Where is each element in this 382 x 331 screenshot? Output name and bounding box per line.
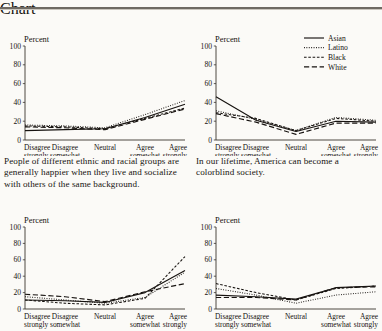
y-tick-label: 60 xyxy=(13,79,21,88)
chart-page: Percent020406080100DisagreestronglyDisag… xyxy=(0,0,382,331)
x-tick-label: strongly xyxy=(215,320,240,329)
chart-panel-bottom-left: Percent020406080100DisagreestronglyDisag… xyxy=(0,205,191,331)
y-tick-label: 80 xyxy=(13,239,21,248)
x-tick-label: strongly xyxy=(24,320,49,329)
chart-bottom-right: Percent020406080100DisagreestronglyDisag… xyxy=(191,205,382,331)
y-tick-label: 100 xyxy=(10,42,22,51)
chart-panel-top-left: Percent020406080100DisagreestronglyDisag… xyxy=(0,16,191,156)
y-tick-label: 0 xyxy=(17,136,21,145)
caption-right: In our lifetime, America can become a co… xyxy=(196,156,376,179)
legend-label-white: White xyxy=(328,63,347,72)
legend-label-latino: Latino xyxy=(328,43,348,52)
y-tick-label: 100 xyxy=(201,223,213,232)
y-tick-label: 20 xyxy=(13,117,21,126)
y-tick-label: 0 xyxy=(208,136,212,145)
y-tick-label: 40 xyxy=(13,272,21,281)
x-tick-label: strongly xyxy=(163,320,188,329)
y-tick-label: 20 xyxy=(13,288,21,297)
x-tick-label: Neutral xyxy=(285,312,307,321)
y-tick-label: 60 xyxy=(204,255,212,264)
series-line-black xyxy=(25,257,185,305)
y-tick-label: 40 xyxy=(204,272,212,281)
y-axis-unit-label: Percent xyxy=(24,216,50,225)
y-tick-label: 20 xyxy=(204,117,212,126)
caption-left: People of different ethnic and racial gr… xyxy=(4,156,184,190)
y-tick-label: 60 xyxy=(13,255,21,264)
legend-label-asian: Asian xyxy=(328,34,346,43)
y-tick-label: 40 xyxy=(13,98,21,107)
x-tick-label: Neutral xyxy=(94,312,116,321)
page-top-rule xyxy=(0,7,382,9)
y-tick-label: 100 xyxy=(201,42,213,51)
y-tick-label: 20 xyxy=(204,288,212,297)
chart-top-right: Percent020406080100DisagreestronglyDisag… xyxy=(191,16,382,156)
x-tick-label: Neutral xyxy=(285,143,307,152)
y-tick-label: 40 xyxy=(204,98,212,107)
x-tick-label: Neutral xyxy=(94,143,116,152)
series-line-latino xyxy=(25,272,185,303)
chart-panel-top-right: Percent020406080100DisagreestronglyDisag… xyxy=(191,16,382,156)
y-tick-label: 80 xyxy=(204,239,212,248)
series-line-white xyxy=(216,287,376,300)
y-tick-label: 0 xyxy=(208,305,212,314)
chart-top-left: Percent020406080100DisagreestronglyDisag… xyxy=(0,16,191,156)
y-axis-unit-label: Percent xyxy=(215,216,241,225)
x-tick-label: somewhat xyxy=(321,320,352,329)
series-line-latino xyxy=(216,111,376,131)
y-axis-unit-label: Percent xyxy=(24,35,50,44)
legend-label-black: Black xyxy=(328,53,346,62)
chart-panel-bottom-right: Percent020406080100DisagreestronglyDisag… xyxy=(191,205,382,331)
series-line-asian xyxy=(216,97,376,132)
series-line-asian xyxy=(25,270,185,302)
x-tick-label: somewhat xyxy=(241,320,272,329)
x-tick-label: strongly xyxy=(354,320,379,329)
y-tick-label: 100 xyxy=(10,223,22,232)
y-tick-label: 80 xyxy=(204,60,212,69)
x-tick-label: somewhat xyxy=(50,320,81,329)
y-tick-label: 60 xyxy=(204,79,212,88)
y-tick-label: 0 xyxy=(17,305,21,314)
chart-bottom-left: Percent020406080100DisagreestronglyDisag… xyxy=(0,205,191,331)
y-axis-unit-label: Percent xyxy=(215,35,241,44)
y-tick-label: 80 xyxy=(13,60,21,69)
x-tick-label: somewhat xyxy=(130,320,161,329)
